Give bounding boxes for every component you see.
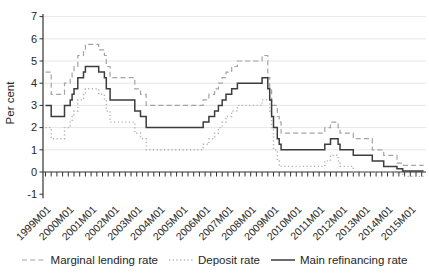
- legend-label-deposit: Deposit rate: [198, 254, 260, 266]
- series-line-2: [46, 67, 424, 171]
- legend: Marginal lending rate Deposit rate Main …: [0, 251, 429, 269]
- legend-label-marginal-lending: Marginal lending rate: [51, 254, 158, 266]
- legend-item-marginal-lending: Marginal lending rate: [22, 254, 158, 266]
- y-tick-label: -1: [27, 188, 37, 200]
- y-tick-label: 7: [31, 10, 37, 22]
- series-line-0: [46, 44, 424, 165]
- y-tick-label: 1: [31, 144, 37, 156]
- rates-figure: 76543210-11999M012000M012001M012002M0120…: [0, 0, 429, 277]
- y-tick-label: 0: [31, 166, 37, 178]
- dotted-line-sample: [169, 257, 193, 263]
- legend-label-main-refinancing: Main refinancing rate: [300, 254, 407, 266]
- y-tick-label: 5: [31, 55, 37, 67]
- y-tick-label: 4: [31, 77, 37, 89]
- y-tick-label: 6: [31, 33, 37, 45]
- y-tick-label: 2: [31, 121, 37, 133]
- legend-item-main-refinancing: Main refinancing rate: [271, 254, 407, 266]
- rates-chart: 76543210-11999M012000M012001M012002M0120…: [0, 0, 429, 248]
- y-tick-label: 3: [31, 99, 37, 111]
- series-line-1: [46, 89, 424, 177]
- dashed-line-sample: [22, 257, 46, 263]
- solid-line-sample: [271, 257, 295, 263]
- y-axis-title: Per cent: [2, 66, 18, 140]
- legend-item-deposit: Deposit rate: [169, 254, 260, 266]
